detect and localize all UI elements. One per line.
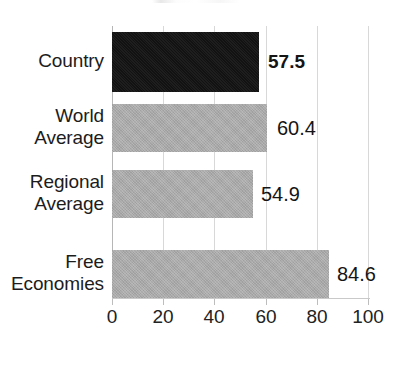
x-tick-label-60: 60: [255, 306, 276, 328]
x-tick-label-80: 80: [306, 306, 327, 328]
value-label-regional-average: 54.9: [261, 184, 300, 204]
bar-chart-figure: Country 57.5 World Average 60.4 Regional…: [0, 0, 406, 369]
category-label-line: Regional: [0, 171, 104, 193]
value-label-world-average: 60.4: [277, 118, 316, 138]
category-label-regional-average: Regional Average: [0, 171, 104, 215]
scan-artifact: [152, 0, 262, 3]
value-label-country: 57.5: [268, 52, 305, 72]
category-label-line: World: [0, 105, 104, 127]
x-axis-tick-labels: 0 20 40 60 80 100: [0, 306, 406, 334]
category-label-line: Average: [0, 127, 104, 149]
bar-free-economies: [112, 250, 329, 298]
bar-row-country: Country 57.5: [0, 30, 406, 94]
category-label-country: Country: [0, 50, 104, 72]
category-label-line: Economies: [0, 273, 104, 295]
bar-regional-average: [112, 170, 253, 218]
category-label-free-economies: Free Economies: [0, 251, 104, 295]
category-label-line: Free: [0, 251, 104, 273]
bar-row-free-economies: Free Economies 84.6: [0, 248, 406, 300]
bar-row-world-average: World Average 60.4: [0, 102, 406, 154]
category-label-line: Country: [0, 50, 104, 72]
value-label-free-economies: 84.6: [337, 264, 376, 284]
x-tick-label-100: 100: [352, 306, 384, 328]
bar-row-regional-average: Regional Average 54.9: [0, 168, 406, 220]
category-label-world-average: World Average: [0, 105, 104, 149]
bar-country: [112, 32, 259, 92]
x-tick-label-0: 0: [107, 306, 118, 328]
bar-world-average: [112, 104, 267, 152]
category-label-line: Average: [0, 193, 104, 215]
x-tick-label-20: 20: [152, 306, 173, 328]
x-tick-label-40: 40: [203, 306, 224, 328]
